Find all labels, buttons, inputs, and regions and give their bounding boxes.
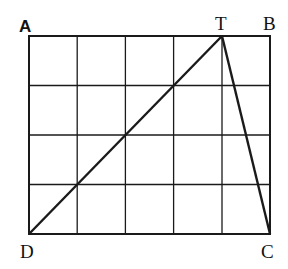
grid-lines [29, 36, 270, 234]
label-t: T [215, 13, 227, 34]
label-d: D [20, 241, 34, 262]
label-a: A [19, 17, 31, 36]
grid-diagram: A T B D C [0, 0, 288, 269]
label-c: C [261, 241, 274, 262]
label-b: B [263, 13, 276, 34]
